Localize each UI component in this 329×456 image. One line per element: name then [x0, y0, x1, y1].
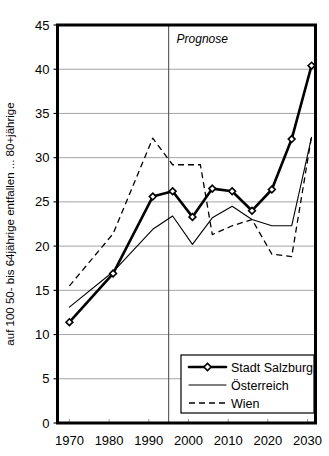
- prognose-annotation: Prognose: [177, 32, 229, 46]
- y-tick-label-45: 45: [35, 18, 49, 33]
- chart-container: 051015202530354045 197019801990200020102…: [0, 0, 329, 456]
- y-tick-label-40: 40: [35, 62, 49, 77]
- legend-label: Stadt Salzburg: [231, 361, 313, 375]
- y-tick-label-20: 20: [35, 239, 49, 254]
- y-tick-label-5: 5: [42, 371, 49, 386]
- x-tick-label-1990: 1990: [134, 433, 163, 448]
- legend-label: Wien: [231, 397, 260, 411]
- y-tick-label-30: 30: [35, 150, 49, 165]
- x-tick-label-2020: 2020: [253, 433, 282, 448]
- x-tick-label-1970: 1970: [55, 433, 84, 448]
- y-tick-label-0: 0: [42, 416, 49, 431]
- chart-legend: Stadt SalzburgÖsterreichWien: [181, 355, 314, 413]
- line-chart: 051015202530354045 197019801990200020102…: [0, 0, 329, 456]
- y-tick-label-10: 10: [35, 327, 49, 342]
- y-tick-label-25: 25: [35, 194, 49, 209]
- y-tick-label-35: 35: [35, 106, 49, 121]
- y-axis-title: auf 100 50- bis 64jährige entfallen ... …: [4, 102, 16, 345]
- x-tick-label-2010: 2010: [214, 433, 243, 448]
- x-axis-tick-labels: 1970198019902000201020202030: [55, 433, 322, 448]
- x-tick-label-2030: 2030: [293, 433, 322, 448]
- y-tick-label-15: 15: [35, 283, 49, 298]
- x-tick-label-2000: 2000: [174, 433, 203, 448]
- x-tick-label-1980: 1980: [95, 433, 124, 448]
- legend-label: Österreich: [231, 379, 289, 393]
